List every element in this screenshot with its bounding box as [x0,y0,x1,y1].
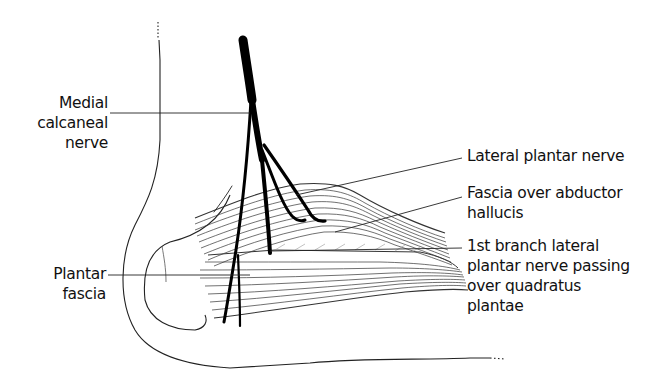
label-lateral-plantar-nerve: Lateral plantar nerve [467,146,624,166]
label-line: plantae [467,296,630,316]
skin-outline [123,22,505,368]
label-line: nerve [20,133,108,153]
label-line: hallucis [467,203,622,223]
label-line: over quadratus [467,276,630,296]
label-medial-calcaneal-nerve: Medial calcaneal nerve [20,93,108,153]
label-line: Fascia over abductor [467,183,622,203]
label-line: calcaneal [20,113,108,133]
leader-lateral-plantar [296,158,462,195]
leader-first-branch [270,248,462,251]
label-line: Medial [20,93,108,113]
heel-anatomy-diagram: Medial calcaneal nerve Lateral plantar n… [0,0,664,379]
label-line: Lateral plantar nerve [467,146,624,166]
tibial-nerve-trunk [243,40,252,100]
label-line: plantar nerve passing [467,256,630,276]
label-line: Plantar [20,264,106,284]
label-plantar-fascia: Plantar fascia [20,264,106,304]
label-fascia-over-abductor-hallucis: Fascia over abductor hallucis [467,183,622,223]
label-line: fascia [20,284,106,304]
abductor-hallucis-fibers [195,183,452,266]
label-first-branch-lateral-plantar-nerve: 1st branch lateral plantar nerve passing… [467,236,630,316]
label-line: 1st branch lateral [467,236,630,256]
nerves [214,40,325,326]
